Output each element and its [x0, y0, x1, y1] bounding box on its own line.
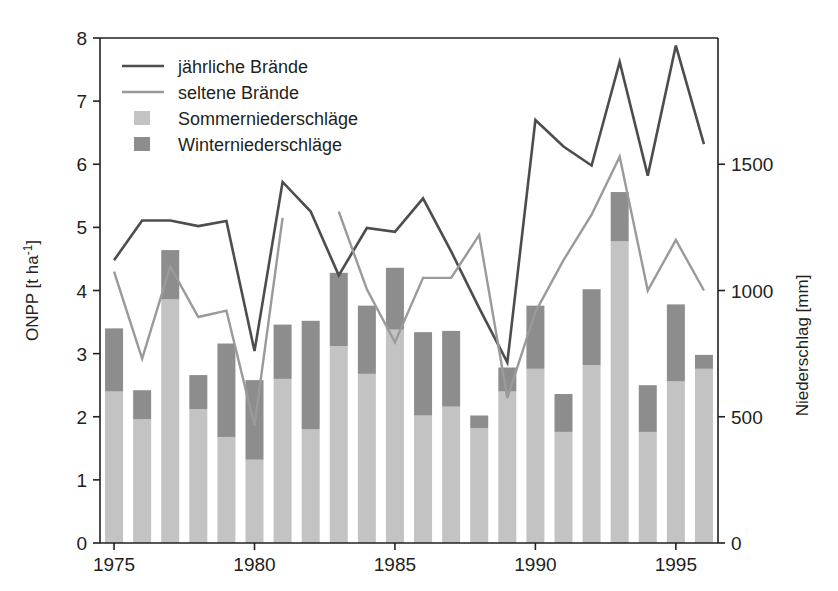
onpp-niederschlag-chart: 0123456780500100015001975198019851990199… — [0, 0, 838, 591]
y2-tick-label: 1500 — [731, 154, 773, 175]
bar-summer — [555, 432, 573, 543]
bar-summer — [414, 415, 432, 543]
bar-summer — [386, 330, 404, 543]
bar-winter — [133, 390, 151, 419]
y-tick-label: 8 — [76, 28, 87, 49]
bar-summer — [302, 429, 320, 543]
legend-swatch-marker — [134, 111, 150, 125]
bar-winter — [386, 268, 404, 330]
y-tick-label: 1 — [76, 470, 87, 491]
y2-tick-label: 0 — [731, 533, 742, 554]
y-tick-label: 4 — [76, 281, 87, 302]
bar-winter — [470, 415, 488, 428]
bar-winter — [274, 325, 292, 379]
y-tick-label: 2 — [76, 407, 87, 428]
y-tick-label: 5 — [76, 217, 87, 238]
x-tick-label: 1990 — [514, 554, 556, 575]
bar-winter — [695, 355, 713, 369]
bar-summer — [133, 419, 151, 543]
bar-summer — [639, 432, 657, 543]
bar-summer — [498, 392, 516, 544]
y2-tick-label: 1000 — [731, 281, 773, 302]
bar-winter — [414, 332, 432, 415]
x-tick-label: 1995 — [655, 554, 697, 575]
legend-swatch-marker — [134, 137, 150, 151]
bar-winter — [189, 375, 207, 409]
bar-summer — [217, 437, 235, 543]
chart-figure: 0123456780500100015001975198019851990199… — [0, 0, 838, 591]
bar-winter — [667, 304, 685, 381]
bar-winter — [105, 328, 123, 391]
bar-winter — [555, 394, 573, 432]
bar-summer — [274, 379, 292, 543]
bar-summer — [246, 460, 264, 543]
y2-axis-title: Niederschlag [mm] — [793, 275, 812, 417]
bar-winter — [217, 344, 235, 437]
bar-summer — [695, 369, 713, 543]
y-tick-label: 7 — [76, 91, 87, 112]
bar-summer — [442, 407, 460, 543]
bar-winter — [442, 331, 460, 407]
bar-summer — [667, 381, 685, 543]
bar-summer — [583, 365, 601, 543]
legend-label: jährliche Brände — [177, 57, 308, 77]
bar-winter — [330, 273, 348, 346]
bar-winter — [161, 250, 179, 299]
bar-summer — [105, 392, 123, 544]
x-tick-label: 1985 — [374, 554, 416, 575]
x-tick-label: 1975 — [93, 554, 135, 575]
legend-label: seltene Brände — [178, 83, 299, 103]
y-tick-label: 0 — [76, 533, 87, 554]
y-tick-label: 6 — [76, 154, 87, 175]
x-tick-label: 1980 — [233, 554, 275, 575]
legend-label: Sommerniederschläge — [178, 109, 358, 129]
bar-summer — [358, 374, 376, 543]
bar-winter — [611, 192, 629, 241]
legend-label: Winterniederschläge — [178, 135, 342, 155]
bar-winter — [639, 385, 657, 432]
y2-tick-label: 500 — [731, 407, 763, 428]
bar-summer — [189, 409, 207, 543]
y-tick-label: 3 — [76, 344, 87, 365]
bar-summer — [611, 241, 629, 543]
bar-summer — [330, 346, 348, 543]
bar-summer — [161, 299, 179, 543]
bar-summer — [470, 428, 488, 543]
bar-winter — [583, 289, 601, 365]
bar-winter — [302, 321, 320, 430]
bar-winter — [358, 306, 376, 374]
bar-summer — [526, 369, 544, 543]
